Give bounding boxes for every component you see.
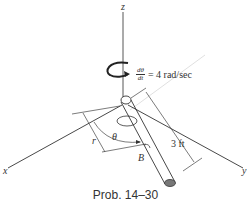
x-axis: [8, 105, 122, 168]
rod-top: [121, 96, 131, 104]
y-axis: [128, 105, 243, 168]
angular-rate-label: dθ dt = 4 rad/sec: [136, 67, 192, 82]
point-b-label: B: [138, 153, 144, 163]
faint-y-line: [130, 55, 205, 110]
length-dim-top: [131, 88, 146, 98]
length-dim-line: [146, 92, 194, 162]
x-axis-label: x: [3, 166, 7, 176]
y-axis-label: y: [242, 166, 246, 176]
r-label: r: [92, 136, 96, 146]
r-dim-line: [83, 113, 105, 152]
rate-fraction: dθ dt: [136, 67, 145, 82]
rate-value: = 4 rad/sec: [148, 69, 192, 80]
theta-arrowhead-icon: [136, 140, 141, 144]
mechanism-diagram: [0, 0, 251, 200]
r-dim-bottom: [102, 144, 146, 152]
rod-end: [165, 180, 176, 187]
length-label: 3 ft: [171, 138, 185, 149]
figure-caption: Prob. 14–30: [0, 188, 251, 200]
collar: [117, 116, 137, 126]
rotation-arrowhead-icon: [124, 71, 130, 77]
rate-denominator: dt: [138, 75, 143, 82]
theta-label: θ: [112, 132, 117, 142]
z-axis-label: z: [121, 2, 125, 12]
rod-left-edge: [121, 102, 165, 184]
